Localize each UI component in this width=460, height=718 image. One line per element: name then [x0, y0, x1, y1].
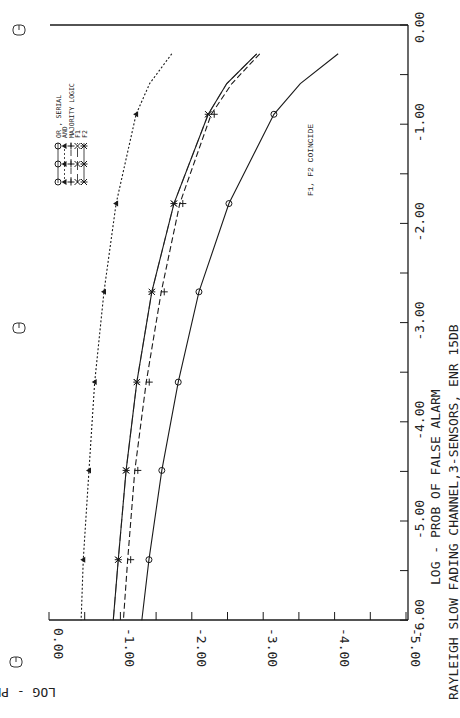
chart: 0.00-1.00-2.00-3.00-4.00-5.00-6.00 0.00-…: [0, 0, 460, 718]
miss-tick-label: -1.00: [122, 628, 137, 667]
registration-mark-icon: [13, 25, 25, 35]
miss-tick-label: -4.00: [337, 628, 352, 667]
plus-marker-icon: [127, 556, 134, 563]
false-alarm-tick-label: -3.00: [412, 301, 427, 340]
plus-marker-icon: [68, 179, 75, 186]
legend-label: MAJORITY LOGIC: [68, 83, 76, 138]
legend-item: OR , SERIAL: [55, 95, 63, 185]
triangle-marker-icon: [62, 161, 67, 167]
coincide-annotation: F1, F2 COINCIDE: [306, 124, 315, 196]
legend-item: F2: [81, 130, 89, 185]
legend: OR , SERIALANDMAJORITY LOGICF1F2: [55, 83, 89, 185]
series-layer: [80, 54, 338, 620]
false-alarm-axis-ticks: 0.00-1.00-2.00-3.00-4.00-5.00-6.00: [400, 12, 427, 639]
series-line: [81, 54, 172, 620]
miss-tick-label: -3.00: [265, 628, 280, 667]
triangle-marker-icon: [62, 143, 67, 149]
series-f2: [113, 54, 257, 620]
miss-tick-label: -2.00: [194, 628, 209, 667]
plus-marker-icon: [179, 200, 186, 207]
plot-frame: [49, 25, 408, 620]
triangle-marker-icon: [80, 557, 85, 563]
registration-mark-icon: [13, 323, 25, 333]
series-line: [113, 54, 257, 620]
triangle-marker-icon: [62, 179, 67, 185]
series-line: [113, 54, 257, 620]
registration-marks: [10, 25, 25, 667]
miss-tick-label: -5.00: [408, 628, 423, 667]
miss-axis-title: LOG - PROB OF MISS: [0, 685, 56, 700]
false-alarm-axis-title: LOG - PROB OF FALSE ALARM: [428, 389, 443, 585]
plus-marker-icon: [68, 143, 75, 150]
false-alarm-tick-label: -2.00: [412, 202, 427, 241]
plus-marker-icon: [211, 111, 218, 118]
plus-marker-icon: [134, 467, 141, 474]
false-alarm-tick-label: -1.00: [412, 103, 427, 142]
false-alarm-tick-label: 0.00: [412, 12, 427, 43]
plus-marker-icon: [68, 161, 75, 168]
registration-mark-icon: [10, 657, 22, 667]
false-alarm-tick-label: -5.00: [412, 500, 427, 539]
false-alarm-tick-label: -4.00: [412, 401, 427, 440]
miss-tick-label: 0.00: [51, 628, 66, 659]
series-f1: [113, 54, 257, 620]
series-and: [80, 54, 172, 620]
star-marker-icon: [205, 111, 212, 117]
legend-label: F2: [81, 130, 89, 138]
plus-marker-icon: [161, 288, 168, 295]
chart-title: RAYLEIGH SLOW FADING CHANNEL,3-SENSORS, …: [446, 324, 460, 700]
